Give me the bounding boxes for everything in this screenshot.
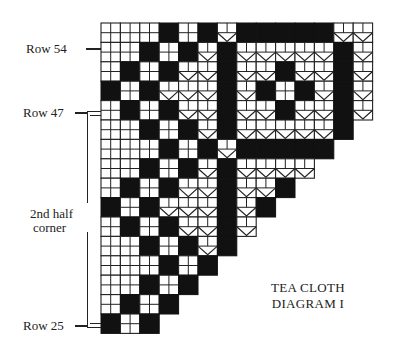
grid-block-open: [140, 217, 159, 236]
grid-block-lacet: [295, 62, 314, 81]
grid-block-lacet: [159, 81, 178, 100]
grid-block-solid: [217, 120, 236, 139]
grid-block-solid: [256, 81, 275, 100]
grid-block-lacet: [237, 42, 256, 61]
grid-block-solid: [140, 275, 159, 294]
grid-block-lacet: [237, 101, 256, 120]
bracket-top-inner: [90, 115, 101, 116]
grid-block-open: [140, 101, 159, 120]
row-25-label: Row 25: [23, 319, 64, 332]
row-54-tick: [86, 48, 101, 50]
grid-block-lacet: [198, 178, 217, 197]
grid-block-lacet: [237, 198, 256, 217]
grid-block-lacet: [314, 42, 333, 61]
grid-block-lacet: [179, 101, 198, 120]
grid-block-lacet: [217, 139, 236, 158]
grid-block-solid: [120, 178, 139, 197]
grid-block-open: [159, 159, 178, 178]
grid-block-open: [159, 42, 178, 61]
grid-block-open: [101, 62, 120, 81]
grid-block-solid: [334, 101, 353, 120]
grid-block-solid: [276, 62, 295, 81]
bracket-vertical-upper: [87, 111, 88, 203]
grid-block-lacet: [237, 120, 256, 139]
grid-block-solid: [276, 101, 295, 120]
grid-block-lacet: [198, 120, 217, 139]
grid-block-solid: [159, 217, 178, 236]
grid-block-lacet: [276, 159, 295, 178]
grid-block-open: [101, 178, 120, 197]
grid-block-open: [159, 275, 178, 294]
grid-block-open: [101, 236, 120, 255]
grid-block-open: [101, 120, 120, 139]
row-25-tick: [75, 325, 87, 327]
grid-block-lacet: [295, 120, 314, 139]
diagram-title-line1: TEA CLOTH: [253, 281, 363, 294]
grid-block-solid: [159, 256, 178, 275]
grid-block-solid: [120, 62, 139, 81]
bracket-top-outer: [87, 111, 101, 112]
grid-block-open: [101, 101, 120, 120]
grid-block-lacet: [276, 120, 295, 139]
grid-block-lacet: [217, 23, 236, 42]
grid-block-solid: [179, 120, 198, 139]
grid-block-solid: [140, 159, 159, 178]
grid-block-solid: [120, 217, 139, 236]
bracket-label-line2: corner: [33, 221, 66, 234]
grid-block-solid: [120, 295, 139, 314]
grid-block-solid: [159, 139, 178, 158]
grid-block-solid: [140, 81, 159, 100]
grid-block-open: [140, 23, 159, 42]
grid-block-lacet: [256, 101, 275, 120]
grid-block-solid: [256, 23, 275, 42]
grid-block-solid: [237, 139, 256, 158]
bracket-vertical-lower: [87, 232, 88, 328]
grid-block-open: [179, 256, 198, 275]
grid-block-lacet: [237, 217, 256, 236]
grid-block-lacet: [334, 23, 353, 42]
grid-block-solid: [159, 23, 178, 42]
grid-block-open: [120, 275, 139, 294]
grid-block-solid: [314, 23, 333, 42]
row-54-label: Row 54: [26, 42, 67, 55]
grid-block-solid: [120, 101, 139, 120]
grid-block-lacet: [237, 81, 256, 100]
grid-block-lacet: [276, 42, 295, 61]
grid-block-lacet: [256, 159, 275, 178]
grid-block-lacet: [198, 159, 217, 178]
grid-block-solid: [198, 256, 217, 275]
grid-block-lacet: [198, 81, 217, 100]
grid-block-solid: [140, 314, 159, 333]
grid-block-solid: [159, 178, 178, 197]
grid-block-open: [140, 295, 159, 314]
grid-block-solid: [276, 139, 295, 158]
grid-block-lacet: [353, 23, 372, 42]
grid-block-solid: [159, 295, 178, 314]
grid-block-lacet: [198, 42, 217, 61]
grid-block-lacet: [256, 62, 275, 81]
grid-block-lacet: [198, 236, 217, 255]
grid-block-open: [101, 42, 120, 61]
grid-block-solid: [159, 101, 178, 120]
grid-block-lacet: [314, 62, 333, 81]
grid-block-solid: [179, 159, 198, 178]
grid-block-solid: [198, 139, 217, 158]
grid-block-solid: [334, 81, 353, 100]
grid-block-solid: [140, 42, 159, 61]
grid-block-lacet: [198, 62, 217, 81]
grid-block-open: [140, 62, 159, 81]
grid-block-open: [120, 159, 139, 178]
grid-block-lacet: [179, 81, 198, 100]
bracket-bottom-inner: [90, 323, 101, 324]
grid-block-solid: [276, 23, 295, 42]
row-47-label: Row 47: [23, 106, 64, 119]
grid-block-solid: [179, 275, 198, 294]
grid-block-open: [101, 23, 120, 42]
grid-block-open: [159, 120, 178, 139]
grid-block-lacet: [198, 101, 217, 120]
grid-block-lacet: [179, 217, 198, 236]
grid-block-solid: [217, 42, 236, 61]
grid-block-solid: [295, 23, 314, 42]
grid-block-lacet: [295, 42, 314, 61]
row-47-tick: [75, 112, 87, 114]
